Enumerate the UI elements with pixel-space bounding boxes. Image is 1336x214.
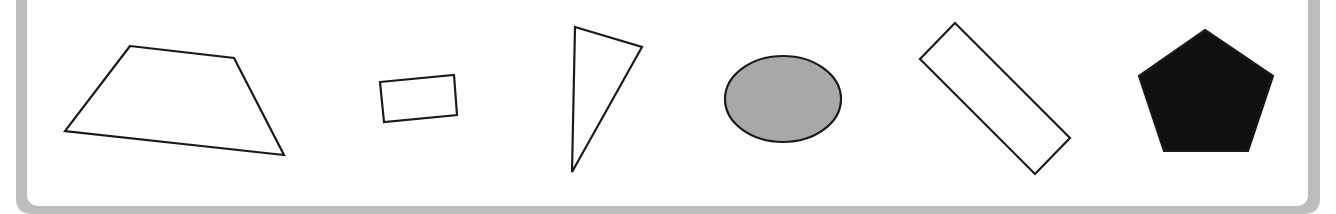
shapes-figure xyxy=(0,0,1336,214)
rectangle-shape xyxy=(380,75,457,122)
frame-border xyxy=(16,0,1320,214)
shapes-group xyxy=(65,23,1273,174)
pentagon-shape xyxy=(1139,30,1273,151)
ellipse-shape xyxy=(725,56,841,142)
rotated-rectangle-shape xyxy=(920,23,1070,174)
shapes-canvas xyxy=(0,0,1336,214)
trapezoid-shape xyxy=(65,46,284,155)
triangle-shape xyxy=(572,27,642,172)
